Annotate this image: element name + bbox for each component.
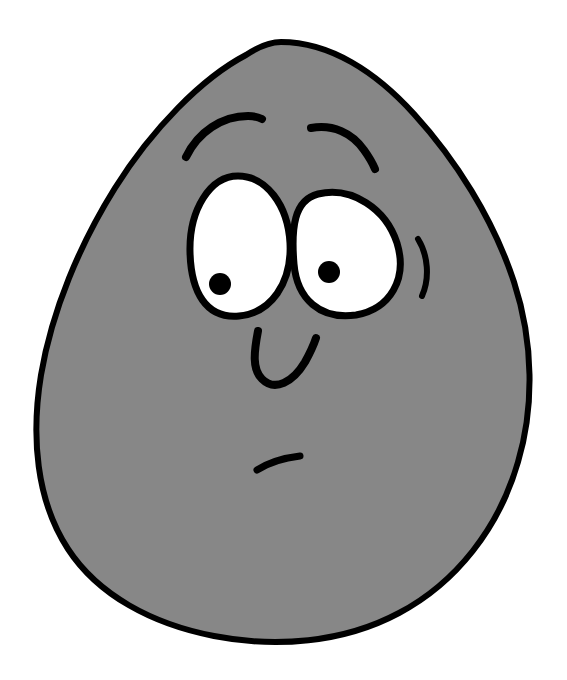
blob-character-illustration (0, 0, 567, 680)
left-pupil-icon (209, 273, 231, 295)
right-pupil-icon (318, 261, 340, 283)
left-eye-shape (190, 176, 290, 316)
left-eye-group (190, 176, 290, 316)
illustration-canvas: Cartoon gray blob character with a puzzl… (0, 0, 567, 680)
